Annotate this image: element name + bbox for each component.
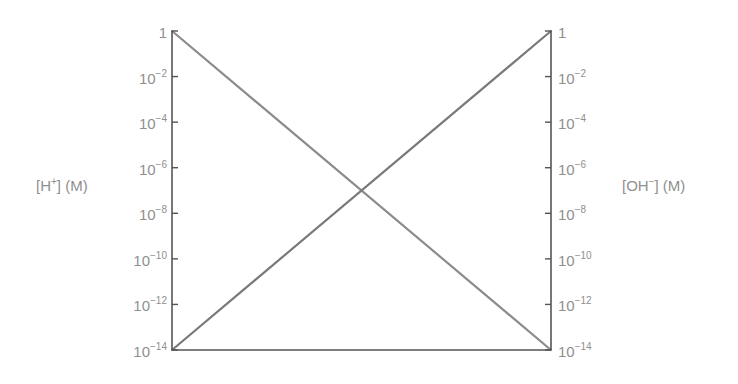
right-tick-label: 10−8	[558, 207, 618, 222]
left-tick-label: 1	[107, 25, 167, 40]
series-layer	[172, 31, 551, 350]
right-tick-label: 10−10	[558, 253, 618, 268]
left-tick-label: 10−14	[107, 344, 167, 359]
left-tick-label: 10−6	[107, 162, 167, 177]
left-tick-label: 10−2	[107, 71, 167, 86]
left-tick-label: 10−10	[107, 253, 167, 268]
ph-concentration-chart: 110−210−410−610−810−1010−1210−14 110−210…	[0, 0, 738, 384]
right-tick-label: 10−12	[558, 298, 618, 313]
left-tick-label: 10−12	[107, 298, 167, 313]
right-tick-label: 1	[558, 25, 618, 40]
left-axis-title: [H+] (M)	[36, 178, 88, 193]
right-axis-title: [OH−] (M)	[622, 178, 685, 193]
left-tick-label: 10−4	[107, 116, 167, 131]
right-tick-label: 10−2	[558, 71, 618, 86]
right-tick-label: 10−14	[558, 344, 618, 359]
left-tick-label: 10−8	[107, 207, 167, 222]
right-tick-label: 10−6	[558, 162, 618, 177]
right-tick-label: 10−4	[558, 116, 618, 131]
